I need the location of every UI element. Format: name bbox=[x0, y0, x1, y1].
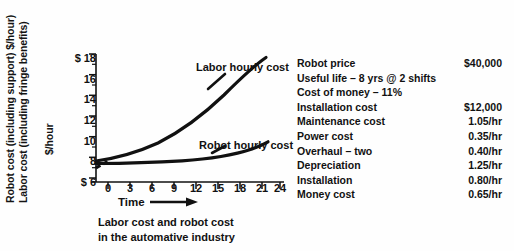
spec-row: Installation cost$12,000 bbox=[297, 100, 502, 115]
caption-line-1: Labor cost and robot cost bbox=[98, 215, 235, 230]
x-axis-title: Time bbox=[118, 196, 198, 208]
spec-label: Installation bbox=[297, 173, 352, 188]
spec-value: 0.40/hr bbox=[468, 144, 502, 159]
x-axis-tick-6: 6 bbox=[149, 182, 155, 194]
arrow-right-icon bbox=[150, 197, 198, 207]
spec-row: Robot price$40,000 bbox=[297, 56, 502, 71]
spec-value: 1.05/hr bbox=[468, 114, 502, 129]
spec-label: Robot price bbox=[297, 56, 355, 71]
spec-label: Power cost bbox=[297, 129, 353, 144]
spec-row: Cost of money – 11% bbox=[297, 85, 502, 100]
spec-label: Useful life – 8 yrs @ 2 shifts bbox=[297, 71, 436, 86]
x-axis-tick-0: 0 bbox=[105, 182, 111, 194]
x-axis-tick-12: 12 bbox=[190, 182, 202, 194]
spec-row: Money cost0.65/hr bbox=[297, 187, 502, 202]
y-axis-unit-label: $/hour bbox=[43, 124, 55, 156]
series-label-labor-hourly-cost: Labor hourly cost bbox=[196, 61, 289, 73]
caption-line-2: in the automative industry bbox=[98, 230, 235, 245]
spec-value: 0.35/hr bbox=[468, 129, 502, 144]
spec-label: Overhaul – two bbox=[297, 144, 372, 159]
spec-value: 1.25/hr bbox=[468, 158, 502, 173]
figure-labor-vs-robot-cost: Robot cost (including support) $/hour) L… bbox=[0, 0, 514, 251]
spec-value: $40,000 bbox=[464, 56, 502, 71]
x-axis-tick-15: 15 bbox=[212, 182, 224, 194]
y-major-ticks bbox=[89, 54, 96, 178]
spec-value: $12,000 bbox=[464, 100, 502, 115]
x-axis-tick-9: 9 bbox=[171, 182, 177, 194]
spec-row: Overhaul – two0.40/hr bbox=[297, 144, 502, 159]
spec-row: Useful life – 8 yrs @ 2 shifts bbox=[297, 71, 502, 86]
plot-area bbox=[62, 52, 290, 202]
plot-svg bbox=[62, 52, 290, 202]
x-axis-tick-3: 3 bbox=[127, 182, 133, 194]
x-axis-tick-24: 24 bbox=[274, 182, 286, 194]
x-axis-tick-18: 18 bbox=[234, 182, 246, 194]
spec-row: Depreciation1.25/hr bbox=[297, 158, 502, 173]
spec-label: Installation cost bbox=[297, 100, 377, 115]
spec-label: Money cost bbox=[297, 187, 355, 202]
spec-row: Installation0.80/hr bbox=[297, 173, 502, 188]
series-label-robot-hourly-cost: Robot hourly cost bbox=[199, 139, 293, 151]
spec-label: Depreciation bbox=[297, 158, 361, 173]
spec-label: Cost of money – 11% bbox=[297, 85, 402, 100]
x-axis-tick-21: 21 bbox=[256, 182, 268, 194]
y-axis-label-robot-cost: Robot cost (including support) $/hour) bbox=[4, 15, 16, 203]
spec-value: 0.65/hr bbox=[468, 187, 502, 202]
spec-row: Power cost0.35/hr bbox=[297, 129, 502, 144]
leader-line-labor bbox=[208, 74, 225, 89]
spec-row: Maintenance cost1.05/hr bbox=[297, 114, 502, 129]
figure-caption: Labor cost and robot cost in the automat… bbox=[98, 215, 235, 245]
robot-specs-table: Robot price$40,000Useful life – 8 yrs @ … bbox=[297, 56, 502, 202]
spec-value: 0.80/hr bbox=[468, 173, 502, 188]
x-axis-title-text: Time bbox=[118, 196, 145, 208]
spec-label: Maintenance cost bbox=[297, 114, 385, 129]
y-axis-label-labor-cost: Labor cost (including fringe benefits) bbox=[17, 21, 29, 203]
